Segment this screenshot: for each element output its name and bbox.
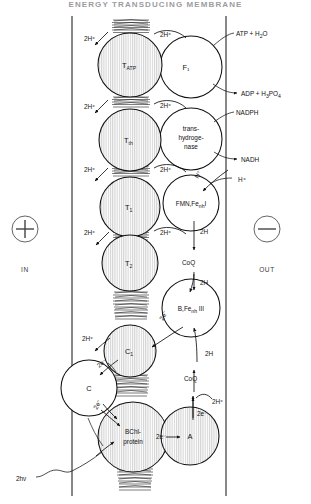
- label-2e-a-up: 2e⁻: [197, 410, 207, 417]
- label-2h-coq-b: 2H: [200, 279, 209, 286]
- label-coq-lower: CoQ: [184, 375, 197, 383]
- label-c: C: [86, 384, 92, 393]
- label-a: A: [188, 432, 193, 441]
- label-h-in-2: 2H⁺: [84, 103, 95, 110]
- label-bchl-1: BChl-: [125, 428, 141, 435]
- label-transhydrogenase-2: hydroge-: [178, 134, 203, 142]
- arrow-h-in-2: [95, 100, 108, 113]
- translocator-circles: [98, 33, 162, 377]
- label-h-out-2: 2H⁺: [160, 102, 171, 109]
- label-transhydrogenase-1: trans-: [183, 125, 199, 132]
- leader-nadph: [214, 112, 234, 122]
- membrane-diagram: TATP Tth T1 T2 C1 F₁ trans- hydroge- nas…: [0, 0, 311, 504]
- label-h-out-4: 2H⁺: [160, 229, 171, 236]
- label-nadph: NADPH: [236, 109, 259, 116]
- arrow-h-in-3: [95, 168, 108, 181]
- label-adp-h3po4: ADP + H3PO4: [241, 90, 281, 99]
- label-h-out-5: 2H⁺: [212, 398, 223, 405]
- leader-photon: [36, 452, 102, 477]
- carrier-f1[interactable]: [160, 36, 222, 98]
- label-h-out-3: 2H⁺: [160, 166, 171, 173]
- label-h-in-5: 2H⁺: [82, 335, 93, 342]
- label-h-in-4: 2H⁺: [84, 229, 95, 236]
- page-title: ENERGY TRANSDUCING MEMBRANE: [0, 0, 311, 9]
- label-out: OUT: [259, 266, 275, 273]
- label-h-out-1: 2H⁺: [160, 31, 171, 38]
- label-2h-fmn-coq: 2H: [200, 228, 209, 235]
- diagram-canvas: ENERGY TRANSDUCING MEMBRANE: [0, 0, 311, 504]
- label-f1: F₁: [182, 63, 190, 72]
- arrow-b-to-c1: [152, 327, 183, 347]
- label-h-in-1: 2H⁺: [84, 35, 95, 42]
- label-bchl-2: protein: [123, 438, 143, 446]
- arrow-h-out-5-curve: [196, 394, 212, 399]
- label-nadh: NADH: [241, 156, 259, 163]
- arrow-h-in-4: [96, 232, 109, 245]
- label-photon: 2hν: [16, 475, 26, 482]
- substrate-labels: ATP + H2O ADP + H3PO4 NADPH NADH H⁺: [236, 30, 281, 183]
- label-in: IN: [21, 266, 29, 273]
- label-h-plus-right: H⁺: [238, 176, 246, 183]
- label-2e-bchl-a: 2e⁻: [156, 433, 166, 440]
- label-h-in-3: 2H⁺: [84, 166, 95, 173]
- label-2h-b-c1: 2H: [205, 350, 214, 357]
- label-atp-h2o: ATP + H2O: [236, 30, 268, 39]
- leader-atp-h2o: [213, 33, 234, 46]
- label-coq-upper: CoQ: [182, 259, 195, 267]
- label-transhydrogenase-3: nase: [184, 143, 198, 150]
